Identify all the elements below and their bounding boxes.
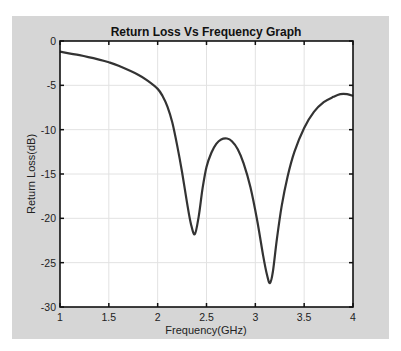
x-tick-label: 1 xyxy=(57,311,63,323)
y-tick-label: -5 xyxy=(47,79,56,91)
x-tick-label: 3.5 xyxy=(297,311,312,323)
y-tick-label: -25 xyxy=(41,257,56,269)
y-tick-label: -30 xyxy=(41,301,56,313)
y-axis-label: Return Loss(dB) xyxy=(25,134,37,214)
x-tick-label: 1.5 xyxy=(102,311,117,323)
x-tick-label: 4 xyxy=(350,311,356,323)
y-tick-label: -15 xyxy=(41,168,56,180)
y-tick-label: 0 xyxy=(50,35,56,47)
x-axis-label: Frequency(GHz) xyxy=(165,324,246,336)
x-tick-label: 2.5 xyxy=(199,311,214,323)
y-tick-label: -10 xyxy=(41,124,56,136)
y-tick-label: -20 xyxy=(41,212,56,224)
x-tick-label: 2 xyxy=(155,311,161,323)
return-loss-chart: 11.522.533.54 0-5-10-15-20-25-30 Return … xyxy=(0,0,401,351)
x-tick-label: 3 xyxy=(252,311,258,323)
chart-title: Return Loss Vs Frequency Graph xyxy=(111,25,302,39)
